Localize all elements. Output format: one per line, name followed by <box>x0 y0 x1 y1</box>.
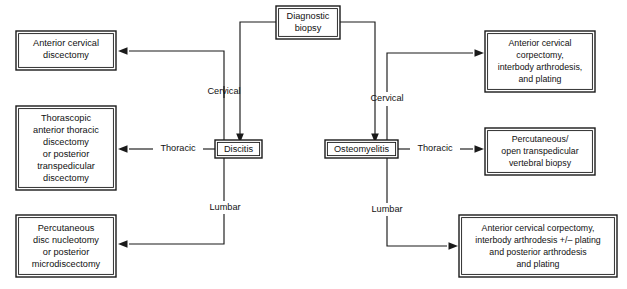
arrowhead-icon <box>475 145 485 153</box>
node-label-line: discectomy <box>43 50 89 60</box>
edge-label-right-cervical: Cervical <box>370 93 403 103</box>
node-label-line: and plating <box>518 74 561 84</box>
node-label-line: or posterior <box>43 247 89 257</box>
node-thorascopic-anterior-thoracic-discectomy[interactable]: Thorascopic anterior thoracic discectomy… <box>16 106 116 190</box>
node-label-line: and plating <box>516 259 559 269</box>
edge-label-left-thoracic: Thoracic <box>160 143 196 153</box>
node-discitis[interactable]: Discitis <box>215 140 262 158</box>
edge-discitis-lumbar <box>118 158 224 248</box>
node-label-line: Diagnostic <box>287 11 330 21</box>
node-percutaneous-open-transpedicular-vertebral-biopsy[interactable]: Percutaneous/ open transpedicular verteb… <box>485 128 595 175</box>
arrowhead-icon <box>475 49 485 57</box>
edge-biopsy-to-osteomyelitis <box>340 22 379 143</box>
node-label-line: discectomy <box>43 137 89 147</box>
node-label-line: anterior thoracic <box>33 125 99 135</box>
edge-label-left-cervical: Cervical <box>207 86 240 96</box>
flowchart-canvas: Cervical Thoracic Lumbar Cervical Thorac… <box>0 0 627 289</box>
arrowhead-icon <box>118 145 128 153</box>
node-percutaneous-disc-nucleotomy[interactable]: Percutaneous disc nucleotomy or posterio… <box>16 215 116 277</box>
node-label-line: Percutaneous/ <box>512 134 569 144</box>
node-label-line: Discitis <box>224 144 253 154</box>
node-label-line: disc nucleotomy <box>33 235 99 245</box>
node-diagnostic-biopsy[interactable]: Diagnostic biopsy <box>276 6 340 39</box>
node-anterior-cervical-corpectomy-posterior-arthrodesis-plating[interactable]: Anterior cervical corpectomy, interbody … <box>459 215 617 277</box>
node-label-line: biopsy <box>295 23 322 33</box>
edge-label-right-lumbar: Lumbar <box>371 204 402 214</box>
node-label-line: open transpedicular <box>501 146 578 156</box>
node-label-line: corpectomy, <box>516 50 563 60</box>
node-label-line: and posterior arthrodesis <box>489 247 587 257</box>
node-label-line: vertebral biopsy <box>509 158 572 168</box>
node-label-line: Anterior cervical <box>33 38 99 48</box>
arrowhead-icon <box>118 47 128 55</box>
node-label-line: transpedicular <box>37 161 95 171</box>
node-label-line: discectomy <box>43 173 89 183</box>
node-label-line: microdiscectomy <box>32 259 101 269</box>
node-label-line: interbody arthrodesis, <box>498 62 583 72</box>
edge-label-right-thoracic: Thoracic <box>417 143 453 153</box>
node-osteomyelitis[interactable]: Osteomyelitis <box>325 140 398 158</box>
node-label-line: or posterior <box>43 149 89 159</box>
node-label-line: Anterior cervical corpectomy, <box>482 223 595 233</box>
arrowhead-icon <box>118 240 128 248</box>
node-label-line: Osteomyelitis <box>334 144 390 154</box>
node-anterior-cervical-corpectomy-interbody-arthrodesis-plating[interactable]: Anterior cervical corpectomy, interbody … <box>485 31 595 92</box>
edge-label-left-lumbar: Lumbar <box>209 202 240 212</box>
edge-biopsy-to-discitis <box>236 22 276 143</box>
node-label-line: interbody arthrodesis +/– plating <box>475 235 601 245</box>
node-label-line: Percutaneous <box>38 223 95 233</box>
flowchart-diagram: Cervical Thoracic Lumbar Cervical Thorac… <box>0 0 627 289</box>
node-label-line: Thorascopic <box>41 113 91 123</box>
node-anterior-cervical-discectomy[interactable]: Anterior cervical discectomy <box>16 31 116 70</box>
node-label-line: Anterior cervical <box>508 38 571 48</box>
arrowhead-icon <box>449 242 459 250</box>
